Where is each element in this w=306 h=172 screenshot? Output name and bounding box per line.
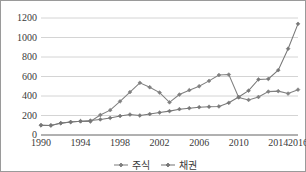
legend-marker-1 <box>119 163 123 167</box>
series-marker-1-2001 <box>148 85 152 89</box>
series-marker-1-2013 <box>266 90 270 94</box>
series-marker-2-1990 <box>39 123 43 127</box>
legend-label-2: 채권 <box>179 160 197 171</box>
series-marker-2-2002 <box>158 111 162 115</box>
y-tick-label-400: 400 <box>22 90 37 101</box>
series-marker-2-2005 <box>187 106 191 110</box>
series-marker-1-2016 <box>296 88 300 92</box>
series-marker-2-2000 <box>138 114 142 118</box>
x-tick-label-2006: 2006 <box>189 137 209 148</box>
line-chart-svg: 0200400600800100012001990199419982002200… <box>1 1 306 172</box>
x-tick-label-2002: 2002 <box>150 137 170 148</box>
x-tick-label-2016: 2016 <box>288 137 306 148</box>
series-marker-2-1996 <box>98 118 102 122</box>
series-marker-2-1994 <box>79 119 83 123</box>
series-marker-1-2009 <box>227 73 231 77</box>
y-tick-label-600: 600 <box>22 71 37 82</box>
x-tick-label-2014: 2014 <box>268 137 288 148</box>
x-tick-label-2010: 2010 <box>229 137 249 148</box>
series-marker-1-2014 <box>276 89 280 93</box>
x-tick-label-1994: 1994 <box>71 137 91 148</box>
series-marker-2-2004 <box>177 107 181 111</box>
y-axis-ticks: 020040060080010001200 <box>17 12 37 140</box>
series-marker-2-1998 <box>118 114 122 118</box>
legend-label-1: 주식 <box>132 160 150 171</box>
legend-marker-2 <box>166 163 170 167</box>
series-marker-2-2007 <box>207 105 211 109</box>
x-tick-label-1990: 1990 <box>31 137 51 148</box>
chart-plot-area: 0200400600800100012001990199419982002200… <box>1 1 306 172</box>
y-tick-label-200: 200 <box>22 110 37 121</box>
series-marker-1-2015 <box>286 92 290 96</box>
series-marker-1-2006 <box>197 84 201 88</box>
series-marker-2-1997 <box>108 116 112 120</box>
series-marker-2-1992 <box>59 121 63 125</box>
x-axis-ticks: 19901994199820022006201020142016 <box>31 137 306 148</box>
gridlines-group <box>41 18 298 135</box>
series-marker-2-2015 <box>286 47 290 51</box>
y-tick-label-800: 800 <box>22 51 37 62</box>
x-tick-label-1998: 1998 <box>110 137 130 148</box>
legend-entry-1[interactable]: 주식 <box>114 160 150 171</box>
y-tick-label-1200: 1200 <box>17 12 37 23</box>
series-marker-2-2008 <box>217 105 221 109</box>
chart-container: 0200400600800100012001990199419982002200… <box>0 0 306 172</box>
series-marker-2-2003 <box>168 109 172 113</box>
series-line-1 <box>41 75 298 126</box>
chart-legend: 주식채권 <box>114 160 197 171</box>
legend-entry-2[interactable]: 채권 <box>161 160 197 171</box>
y-tick-label-1000: 1000 <box>17 32 37 43</box>
series-marker-2-2016 <box>296 22 300 26</box>
series-marker-2-1993 <box>69 120 73 124</box>
series-marker-2-2006 <box>197 105 201 109</box>
series-marker-1-2011 <box>247 98 251 102</box>
series-marker-2-1991 <box>49 124 53 128</box>
series-marker-1-2005 <box>187 88 191 92</box>
series-1 <box>39 73 300 128</box>
